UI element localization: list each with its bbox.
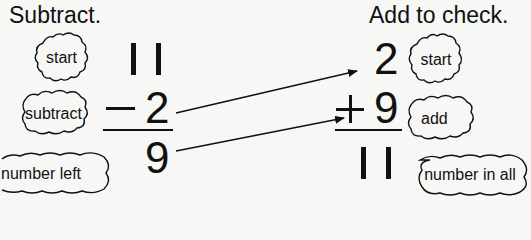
start-cloud-right: start — [407, 33, 465, 86]
add-label: add — [403, 95, 476, 143]
arrow-result-to-addend — [176, 118, 344, 151]
number-in-all-label: number in all — [410, 152, 530, 198]
add-top-number: 2 — [374, 37, 398, 81]
add-answer-line — [335, 129, 402, 131]
digit-one — [386, 147, 391, 179]
digit-one — [361, 147, 366, 179]
plus-sign-vertical — [349, 95, 352, 123]
add-cloud: add — [403, 95, 476, 143]
add-result — [360, 147, 395, 180]
add-operand: 9 — [374, 86, 398, 130]
number-in-all-cloud: number in all — [410, 152, 530, 198]
arrow-operand-to-start — [176, 71, 357, 113]
start-label-right: start — [407, 33, 465, 86]
